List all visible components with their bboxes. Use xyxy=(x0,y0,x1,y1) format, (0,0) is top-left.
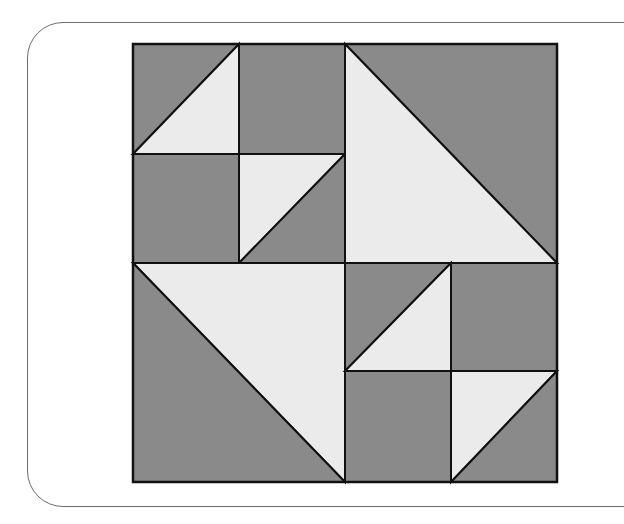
quilt-block xyxy=(0,0,624,524)
quilt-piece-tl-bl-dark xyxy=(133,154,239,263)
quilt-piece-br-bl-dark xyxy=(345,371,451,482)
quilt-piece-br-tr-dark xyxy=(451,263,557,371)
quilt-piece-tl-tr-dark xyxy=(239,44,345,154)
figure-stage xyxy=(0,0,624,524)
